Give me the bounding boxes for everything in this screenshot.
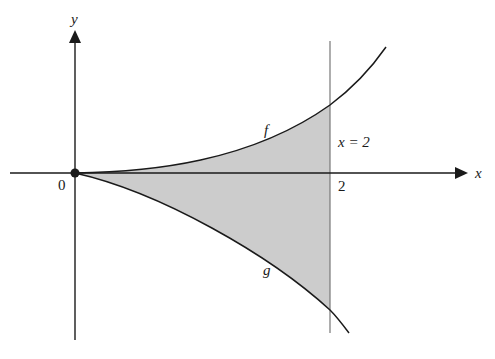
x-axis-arrow-icon xyxy=(455,167,468,179)
curve-g-label: g xyxy=(263,262,271,278)
y-axis-arrow-icon xyxy=(69,30,81,43)
curve-f-label: f xyxy=(264,122,270,138)
x-tick-label-2: 2 xyxy=(338,178,346,194)
origin-label: 0 xyxy=(58,177,66,193)
vertical-line-label: x = 2 xyxy=(337,134,370,150)
origin-point xyxy=(71,169,80,178)
y-axis-label: y xyxy=(69,11,78,27)
area-between-curves-diagram: y x 0 2 x = 2 f g xyxy=(0,0,495,359)
x-axis-label: x xyxy=(474,165,482,181)
